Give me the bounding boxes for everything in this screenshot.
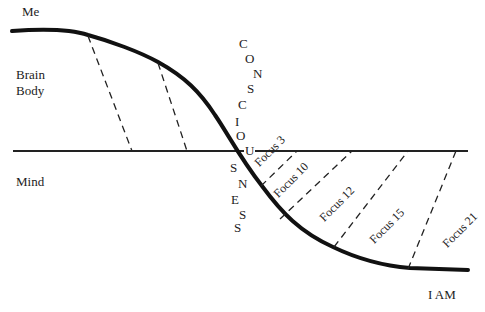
label-i-am: I AM — [428, 287, 456, 302]
consciousness-letter: O — [236, 129, 245, 142]
dashed-line-focus-15 — [408, 151, 456, 269]
consciousness-letter: I — [235, 115, 239, 128]
dashed-line-upper-1 — [88, 36, 132, 151]
consciousness-letter: O — [245, 52, 254, 65]
consciousness-letter: E — [231, 193, 239, 206]
label-brain: Brain — [16, 67, 45, 82]
label-mind: Mind — [16, 174, 44, 189]
label-me: Me — [22, 4, 39, 19]
consciousness-letter: S — [234, 221, 241, 234]
consciousness-letter: U — [244, 144, 255, 157]
consciousness-letter: N — [238, 177, 247, 190]
consciousness-letter: S — [247, 82, 254, 95]
consciousness-letter: N — [253, 67, 262, 80]
consciousness-letter: S — [230, 161, 237, 174]
consciousness-letter: C — [239, 37, 248, 50]
label-body: Body — [16, 83, 44, 98]
consciousness-letter: C — [238, 98, 247, 111]
